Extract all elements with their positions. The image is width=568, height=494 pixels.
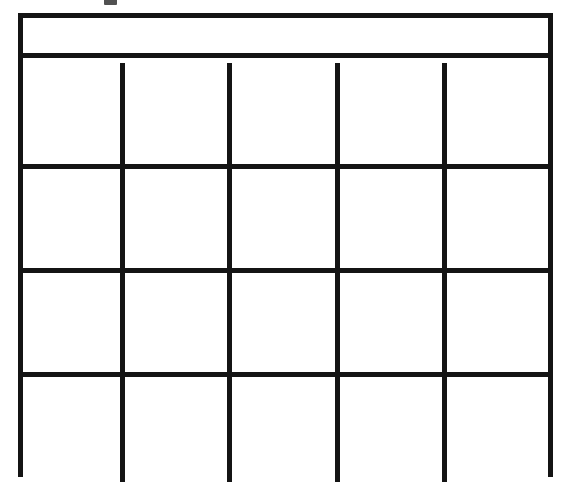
table-cell[interactable] [23,377,125,482]
table-cell-text [232,169,335,177]
table-cell[interactable] [447,169,548,268]
table-cell[interactable] [447,377,548,482]
table-cell-text [447,63,548,71]
table-body [23,63,548,472]
table-cell-text [447,169,548,177]
table-cell-text [125,273,227,281]
table-row [23,169,548,273]
table-cell[interactable] [23,169,125,268]
table-cell[interactable] [125,63,232,164]
table-cell[interactable] [340,63,447,164]
table-cell[interactable] [125,377,232,482]
table-cell-text [232,377,335,385]
table-row [23,273,548,377]
table-cell[interactable] [340,169,447,268]
table-cell-text [23,377,120,385]
table-row [23,377,548,482]
table-cell-text [125,63,227,71]
table-cell-text [232,63,335,71]
grid-table [18,13,553,477]
table-cell[interactable] [125,169,232,268]
table-cell-text [23,169,120,177]
table-cell[interactable] [125,273,232,372]
table-cell-text [23,63,120,71]
page-canvas [0,0,568,494]
table-header-band [23,18,548,58]
table-cell[interactable] [232,377,340,482]
table-cell[interactable] [23,273,125,372]
table-cell-text [340,169,442,177]
table-cell[interactable] [23,63,125,164]
table-cell[interactable] [447,273,548,372]
table-cell-text [340,273,442,281]
table-cell[interactable] [340,273,447,372]
table-cell-text [125,377,227,385]
table-cell[interactable] [340,377,447,482]
table-cell[interactable] [232,63,340,164]
table-cell-text [340,63,442,71]
table-cell[interactable] [232,273,340,372]
table-cell-text [125,169,227,177]
clipped-mark-top-icon [104,0,117,5]
table-cell-text [447,273,548,281]
table-cell-text [232,273,335,281]
table-cell-text [340,377,442,385]
table-row [23,63,548,169]
table-cell[interactable] [447,63,548,164]
table-header-label [23,18,548,38]
table-cell-text [23,273,120,281]
table-cell[interactable] [232,169,340,268]
table-cell-text [447,377,548,385]
